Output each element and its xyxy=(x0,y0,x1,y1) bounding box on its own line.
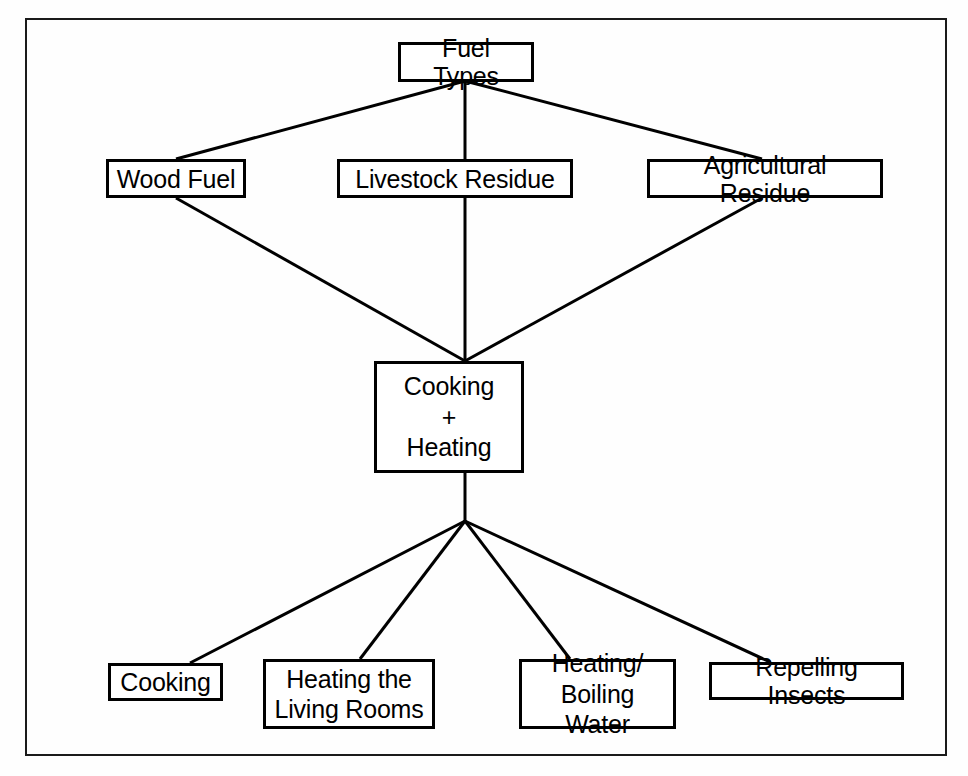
node-cooking[interactable]: Cooking xyxy=(108,663,223,701)
node-fuel-types[interactable]: Fuel Types xyxy=(398,42,534,82)
node-heating-living-rooms-label: Heating the Living Rooms xyxy=(274,664,423,725)
node-heating-boiling-water-label: Heating/ Boiling Water xyxy=(528,648,667,740)
node-wood-fuel[interactable]: Wood Fuel xyxy=(106,159,246,198)
node-livestock-residue[interactable]: Livestock Residue xyxy=(337,159,573,198)
node-cooking-plus-heating[interactable]: Cooking + Heating xyxy=(374,361,524,473)
node-agricultural-residue[interactable]: Agricultural Residue xyxy=(647,159,883,198)
node-cooking-plus-heating-label: Cooking + Heating xyxy=(404,371,494,463)
diagram-canvas: Fuel Types Wood Fuel Livestock Residue A… xyxy=(0,0,968,776)
node-repelling-insects[interactable]: Repelling Insects xyxy=(709,662,904,700)
node-fuel-types-label: Fuel Types xyxy=(407,34,525,90)
node-livestock-residue-label: Livestock Residue xyxy=(355,165,554,193)
node-wood-fuel-label: Wood Fuel xyxy=(117,165,236,193)
node-agricultural-residue-label: Agricultural Residue xyxy=(656,151,874,207)
node-heating-boiling-water[interactable]: Heating/ Boiling Water xyxy=(519,659,676,729)
node-repelling-insects-label: Repelling Insects xyxy=(718,653,895,709)
node-heating-living-rooms[interactable]: Heating the Living Rooms xyxy=(263,659,435,729)
node-cooking-label: Cooking xyxy=(120,668,210,696)
